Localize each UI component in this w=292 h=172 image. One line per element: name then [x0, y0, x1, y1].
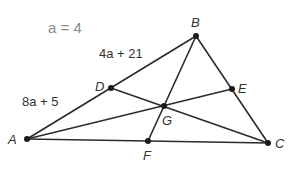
point-b: [193, 33, 199, 39]
point-c: [265, 140, 271, 146]
point-label-f: F: [143, 148, 152, 163]
points: [24, 33, 271, 146]
point-label-c: C: [275, 136, 285, 151]
segment-label-bd: 4a + 21: [99, 46, 143, 61]
given-value: a = 4: [48, 19, 82, 36]
point-label-d: D: [95, 79, 104, 94]
point-label-a: A: [7, 132, 17, 147]
point-label-g: G: [162, 113, 172, 128]
point-label-b: B: [191, 15, 200, 30]
point-f: [145, 138, 151, 144]
segment-label-ad: 8a + 5: [22, 94, 59, 109]
segment-cd: [111, 88, 268, 143]
point-label-e: E: [238, 81, 247, 96]
point-g: [161, 103, 167, 109]
triangle-diagram: ABCDEFG a = 4 4a + 21 8a + 5: [0, 0, 292, 172]
point-a: [24, 136, 30, 142]
point-d: [108, 85, 114, 91]
point-e: [229, 86, 235, 92]
